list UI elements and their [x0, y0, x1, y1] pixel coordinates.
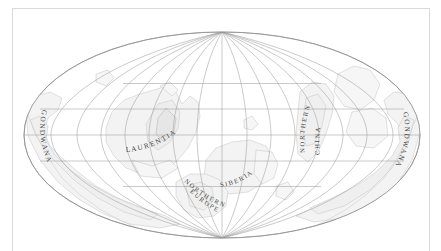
- coastline-gondwana-west-detail: [46, 54, 66, 72]
- label-northern-china-line2: C H I N A: [313, 127, 321, 155]
- world-map-svg: G O N D W A N A G O N D W A N A L A U R …: [0, 0, 441, 251]
- figure-page: G O N D W A N A G O N D W A N A L A U R …: [0, 0, 441, 251]
